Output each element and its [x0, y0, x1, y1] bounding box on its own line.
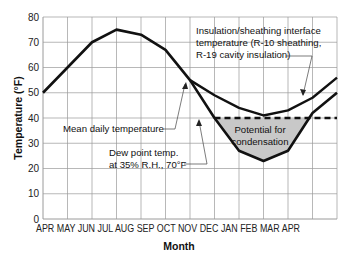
y-tick-label: 10 [28, 188, 40, 199]
y-tick-label: 40 [28, 113, 40, 124]
insulation-label-line3: R-19 cavity insulation) [196, 49, 290, 60]
mean-daily-label: Mean daily temperature [63, 123, 164, 134]
dew-point-label-line2: at 35% R.H., 70°F [109, 159, 187, 170]
condensation-label-line2: condensation [231, 136, 288, 147]
x-axis-title: Month [163, 240, 195, 252]
insulation-leader-line [286, 56, 312, 95]
y-tick-label: 70 [28, 37, 40, 48]
y-axis-ticks: 01020304050607080 [28, 12, 40, 225]
dew-point-label-line1: Dew point temp. [109, 147, 178, 158]
y-axis-title: Temperature (°F) [12, 76, 24, 159]
y-tick-label: 20 [28, 163, 40, 174]
y-tick-label: 80 [28, 12, 40, 23]
condensation-label-line1: Potential for [234, 124, 286, 135]
y-tick-label: 60 [28, 62, 40, 73]
dew-point-leader-line [184, 121, 207, 164]
insulation-label-line1: Insulation/sheathing interface [196, 25, 321, 36]
temperature-chart: 01020304050607080 Insulation/sheathing i… [0, 0, 350, 257]
insulation-label-line2: temperature (R-10 sheathing, [196, 37, 321, 48]
mean-daily-leader-line [163, 84, 185, 129]
x-axis-month-labels: APR MAY JUN JUL AUG SEP OCT NOV DEC JAN … [36, 223, 300, 234]
arrow-head-icon [182, 82, 188, 89]
y-tick-label: 30 [28, 138, 40, 149]
y-tick-label: 50 [28, 87, 40, 98]
arrow-head-icon [196, 119, 202, 126]
